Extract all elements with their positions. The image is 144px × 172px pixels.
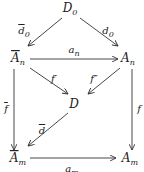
node-an-subscript: n [130, 58, 135, 67]
edge-label-5: d [39, 125, 45, 136]
edge-label-7-base: f [136, 103, 143, 114]
edge-label-5-base: d [39, 125, 45, 136]
node-an-bar-base: A [10, 51, 20, 65]
arrow-d-to-am-bar [28, 113, 68, 146]
edge-label-0: d0 [18, 25, 30, 39]
edge-label-4: f″ [89, 73, 98, 84]
node-d0: D0 [62, 1, 78, 17]
node-an-bar-subscript: n [20, 58, 25, 67]
node-d0-base: D [62, 1, 73, 15]
edge-label-2-subscript: n [74, 49, 79, 58]
edge-label-4-base: f″ [89, 73, 98, 84]
edge-label-0-subscript: 0 [25, 30, 30, 39]
commutative-diagram: D0AnAnDAmAm d0d0anf′f″dffam [0, 0, 144, 172]
edge-label-8: am [65, 163, 79, 172]
node-am-bar: Am [9, 151, 27, 167]
node-am-base: A [121, 151, 131, 165]
edge-label-3: f′ [50, 73, 58, 84]
edge-label-6: f [3, 103, 10, 114]
node-am: Am [121, 151, 139, 167]
edge-label-6-base: f [3, 103, 10, 114]
node-am-bar-base: A [9, 151, 19, 165]
edge-label-1: d0 [102, 25, 114, 39]
node-an-base: A [120, 51, 130, 65]
edge-label-3-base: f′ [50, 73, 58, 84]
arrow-d0-to-an-bar [28, 18, 62, 46]
node-d-base: D [68, 97, 79, 111]
node-d: D [68, 97, 79, 111]
edge-label-1-subscript: 0 [109, 30, 114, 39]
node-an: An [120, 51, 135, 67]
node-d0-subscript: 0 [72, 8, 77, 17]
edge-label-8-subscript: m [71, 168, 79, 172]
node-am-bar-subscript: m [19, 158, 27, 167]
arrow-an-bar-to-d [30, 68, 68, 94]
node-an-bar: An [10, 51, 25, 67]
edge-label-2: an [68, 44, 79, 58]
node-am-subscript: m [131, 158, 139, 167]
edge-label-7: f [136, 103, 143, 114]
